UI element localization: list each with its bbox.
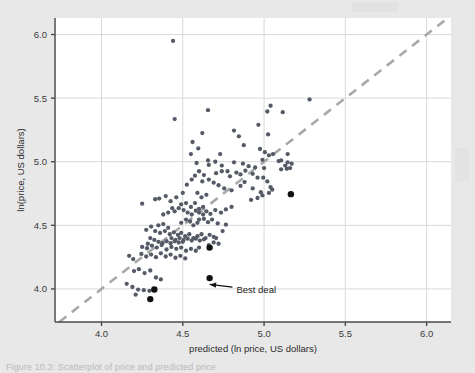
scatter-point (179, 245, 183, 249)
scatter-point (144, 228, 148, 232)
scatter-point (251, 172, 255, 176)
scatter-point (224, 207, 228, 211)
scatter-point (173, 239, 177, 243)
scatter-point (285, 160, 289, 164)
scatter-point (202, 217, 206, 221)
scatter-point (139, 252, 143, 256)
scatter-point (271, 152, 275, 156)
y-axis-ticks: 4.04.55.05.56.0 (34, 29, 55, 294)
scatter-point (189, 205, 193, 209)
scatter-point (255, 196, 259, 200)
scatter-point (207, 233, 211, 237)
scatter-point (214, 171, 218, 175)
scatter-point (199, 195, 203, 199)
scatter-point (242, 143, 246, 147)
highlight-point (206, 244, 212, 250)
highlight-point (288, 191, 294, 197)
y-axis-title: ln(price, US dollars) (15, 128, 26, 211)
scatter-point (218, 152, 222, 156)
highlight-point (151, 286, 157, 292)
scatter-point (195, 221, 199, 225)
scatter-point (200, 179, 204, 183)
data-points (125, 39, 312, 297)
scatter-point (198, 238, 202, 242)
x-tick-label: 5.0 (257, 328, 270, 339)
scatter-point (184, 249, 188, 253)
scatter-point (190, 140, 194, 144)
scatter-point (160, 243, 164, 247)
scatter-point (169, 245, 173, 249)
scatter-point (194, 237, 198, 241)
scatter-point (183, 256, 187, 260)
scatter-point (130, 285, 134, 289)
scatter-point (152, 238, 156, 242)
scatter-point (145, 246, 149, 250)
scatter-point (142, 271, 146, 275)
scatter-point (229, 188, 233, 192)
scatter-point (187, 232, 191, 236)
scatter-point (214, 236, 218, 240)
scatter-point (263, 150, 267, 154)
scatter-point (134, 293, 138, 297)
scatter-point (262, 166, 266, 170)
scatter-point (136, 287, 140, 291)
scatter-point (159, 251, 163, 255)
scatter-point (148, 268, 152, 272)
scatter-point (179, 202, 183, 206)
scatter-point (290, 161, 294, 165)
scatter-point (189, 152, 193, 156)
scatter-point (194, 209, 198, 213)
scatter-point (164, 239, 168, 243)
scatter-point (177, 240, 181, 244)
scatter-point (265, 179, 269, 183)
scatter-point (256, 123, 260, 127)
scatter-point (265, 109, 269, 113)
scatter-point (190, 238, 194, 242)
scatter-point (216, 242, 220, 246)
scatter-point (170, 206, 174, 210)
scatter-point (171, 39, 175, 43)
scatter-point (204, 209, 208, 213)
scatter-point (161, 212, 165, 216)
scatter-point (186, 210, 190, 214)
scatter-point (238, 172, 242, 176)
scatter-point (154, 275, 158, 279)
scatter-point (251, 186, 255, 190)
scatter-point (201, 212, 205, 216)
scatter-point (202, 173, 206, 177)
scatter-point (260, 158, 264, 162)
scatter-point (220, 163, 224, 167)
reference-line-identity (59, 18, 447, 322)
highlight-point (147, 296, 153, 302)
scatter-point (204, 193, 208, 197)
scatter-point (197, 245, 201, 249)
figure-caption: Figure 10.3: Scatterplot of price and pr… (6, 362, 216, 373)
scatter-point (185, 182, 189, 186)
scatter-point (232, 160, 236, 164)
scatter-point (216, 183, 220, 187)
scatter-point (189, 247, 193, 251)
scatter-point (178, 254, 182, 258)
scatter-point (222, 186, 226, 190)
scatter-point (229, 205, 233, 209)
scatter-point (140, 245, 144, 249)
scatter-point (213, 208, 217, 212)
scatter-point (219, 210, 223, 214)
scatter-point (154, 255, 158, 259)
scatter-point (173, 117, 177, 121)
scatter-point (149, 224, 153, 228)
scatter-point (238, 184, 242, 188)
scatter-point (220, 229, 224, 233)
scatter-point (186, 237, 190, 241)
scatter-point (155, 245, 159, 249)
scatter-point (266, 132, 270, 136)
scatter-point (197, 169, 201, 173)
scatter-point (168, 232, 172, 236)
scatter-point (131, 257, 135, 261)
scatter-point (216, 221, 220, 225)
scatter-point (206, 108, 210, 112)
scatter-point (285, 152, 289, 156)
scatter-point (148, 236, 152, 240)
figure-root: 4.04.55.05.56.0 4.04.55.05.56.0 Best dea… (0, 0, 475, 373)
scatter-point (246, 164, 250, 168)
